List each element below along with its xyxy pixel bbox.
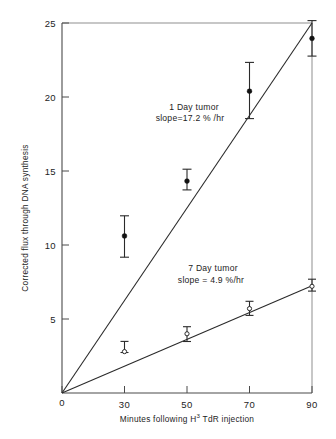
y-tick-marks	[62, 23, 69, 319]
y-tick-label-15: 15	[45, 166, 56, 177]
marker	[122, 350, 126, 354]
x-tick-label-30: 30	[119, 399, 130, 410]
marker	[185, 179, 190, 184]
datapoint-seven-day-30	[121, 341, 129, 353]
y-axis-title: Corrected flux through DNA synthesis	[20, 144, 30, 291]
datapoint-one-day-30	[120, 216, 129, 257]
marker	[247, 89, 252, 94]
x-tick-label-70: 70	[244, 399, 255, 410]
y-tick-label-10: 10	[45, 240, 56, 251]
y-tick-label-25: 25	[45, 18, 56, 29]
x-tick-label-50: 50	[181, 399, 192, 410]
datapoint-one-day-90	[308, 21, 317, 57]
series-one-day-points	[120, 21, 317, 258]
y-tick-label-20: 20	[45, 92, 56, 103]
y-tick-label-5: 5	[50, 314, 56, 325]
x-axis-title-pre: Minutes following H	[120, 414, 197, 424]
annotation-seven-day-line2: slope = 4.9 %/hr	[178, 275, 244, 285]
x-tick-label-90: 90	[306, 399, 317, 410]
x-axis-title-post: TdR injection	[200, 414, 254, 424]
y-tick-labels: 25 20 15 10 5	[45, 18, 56, 325]
annotation-seven-day: 7 Day tumor slope = 4.9 %/hr	[178, 263, 244, 285]
figure-container: 25 20 15 10 5 0 30 50 70 90 Minutes foll…	[0, 0, 336, 439]
x-tick-label-0: 0	[59, 397, 65, 408]
marker	[247, 307, 251, 311]
annotation-one-day-line1: 1 Day tumor	[169, 102, 219, 112]
svg-text:Minutes following H3 TdR injec: Minutes following H3 TdR injection	[120, 412, 255, 424]
annotation-seven-day-line1: 7 Day tumor	[188, 263, 238, 273]
x-tick-marks	[62, 386, 312, 393]
datapoint-seven-day-50	[183, 327, 191, 342]
datapoint-one-day-50	[183, 169, 192, 190]
x-tick-labels: 0 30 50 70 90	[59, 397, 318, 410]
marker	[310, 284, 314, 288]
series-seven-day-points	[121, 279, 317, 354]
y-axis-title-text: Corrected flux through DNA synthesis	[20, 144, 30, 291]
marker	[185, 332, 189, 336]
x-axis-title: Minutes following H3 TdR injection	[120, 412, 255, 424]
marker	[122, 234, 127, 239]
scatter-plot: 25 20 15 10 5 0 30 50 70 90 Minutes foll…	[0, 0, 336, 439]
marker	[310, 36, 315, 41]
datapoint-seven-day-90	[308, 279, 316, 291]
annotation-one-day: 1 Day tumor slope=17.2 % /hr	[156, 102, 225, 123]
annotation-one-day-line2: slope=17.2 % /hr	[156, 113, 225, 123]
